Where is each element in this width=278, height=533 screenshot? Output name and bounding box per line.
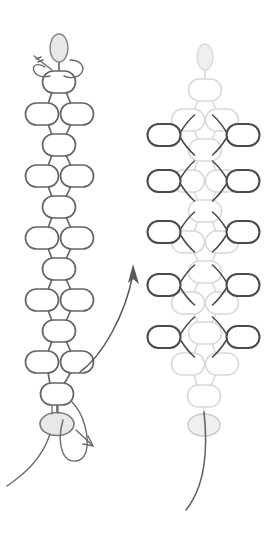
top-anchor-bead-left <box>50 34 68 62</box>
bead-panel-right-r0-0 <box>189 79 222 101</box>
bead-panel-left-r3-1 <box>61 165 94 187</box>
bead-panel-left-r9-1 <box>61 351 94 373</box>
panel-right-added-beads <box>148 44 260 510</box>
arrow-head <box>128 264 139 284</box>
bead-panel-right-r9-0 <box>172 353 205 375</box>
new-bead-right-1 <box>227 124 260 146</box>
bead-panel-right-r6-0 <box>189 261 222 283</box>
bead-panel-left-r0-0 <box>43 71 76 93</box>
panel-left-base-chain <box>7 34 94 486</box>
new-bead-left-4 <box>148 274 181 296</box>
new-bead-left-3 <box>148 221 181 243</box>
new-bead-right-4 <box>227 274 260 296</box>
bead-panel-left-r10-0 <box>41 383 74 405</box>
bottom-anchor-bead-left <box>40 413 74 436</box>
thread-panel-right-9-0 <box>194 374 197 386</box>
bead-panel-right-r10-0 <box>188 385 221 407</box>
bead-panel-right-r8-0 <box>189 322 222 344</box>
new-bead-right-2 <box>227 170 260 192</box>
bead-panel-left-r2-0 <box>43 134 76 156</box>
working-thread-left <box>7 434 50 486</box>
thread-panel-left-0-1 <box>66 92 71 104</box>
bead-panel-left-r5-0 <box>26 227 59 249</box>
new-bead-left-3-stitch-up <box>181 212 195 229</box>
bead-panel-left-r7-1 <box>61 289 94 311</box>
bead-panel-left-r3-0 <box>26 165 59 187</box>
new-bead-left-2 <box>148 170 181 192</box>
bead-panel-left-r1-1 <box>61 103 94 125</box>
new-bead-right-5 <box>227 326 260 348</box>
thread-panel-left-9-1 <box>64 372 71 384</box>
beadwork-diagram <box>0 0 278 533</box>
diagram-canvas <box>0 0 278 533</box>
top-anchor-bead-right <box>197 44 213 70</box>
bead-panel-left-r9-0 <box>26 351 59 373</box>
bead-panel-left-r7-0 <box>26 289 59 311</box>
bead-panel-left-r5-1 <box>61 227 94 249</box>
new-bead-left-5 <box>148 326 181 348</box>
bead-panel-left-r8-0 <box>43 320 76 342</box>
bead-panel-left-r4-0 <box>43 196 76 218</box>
bead-panel-right-r7-0 <box>172 292 205 314</box>
new-bead-right-3 <box>227 221 260 243</box>
bead-panel-left-r1-0 <box>26 103 59 125</box>
bead-panel-right-r9-1 <box>206 353 239 375</box>
bead-panel-right-r4-0 <box>189 200 222 222</box>
new-bead-left-1 <box>148 124 181 146</box>
left-bead-group <box>26 71 94 405</box>
thread-panel-right-9-1 <box>211 374 216 386</box>
bead-panel-left-r6-0 <box>43 258 76 280</box>
